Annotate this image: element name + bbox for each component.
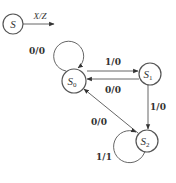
edge-label: 1/0 [150, 102, 166, 112]
state-diagram: S X/Z 0/0 1/0 0/0 1/0 0/0 1/1 S0 S1 [0, 0, 176, 183]
transition-s0-s0: 0/0 [29, 41, 84, 71]
transition-s2-s0: 0/0 [84, 89, 138, 133]
edge-label: 1/1 [96, 152, 112, 162]
legend-transition-label: X/Z [32, 11, 47, 21]
self-loop-arrow [54, 41, 84, 71]
state-s1: S1 [139, 63, 161, 85]
transition-s1-s0: 0/0 [87, 79, 139, 95]
legend-state-label: S [10, 18, 16, 30]
edge-label: 0/0 [91, 117, 107, 127]
edge-label: 0/0 [105, 85, 121, 95]
state-s0: S0 [62, 69, 86, 93]
transition-s1-s2: 1/0 [148, 84, 166, 129]
edge-label: 1/0 [105, 57, 121, 67]
edge-label: 0/0 [29, 46, 45, 56]
state-s2: S2 [136, 130, 158, 152]
transition-s0-s1: 1/0 [87, 57, 138, 71]
legend: S X/Z [3, 11, 54, 34]
